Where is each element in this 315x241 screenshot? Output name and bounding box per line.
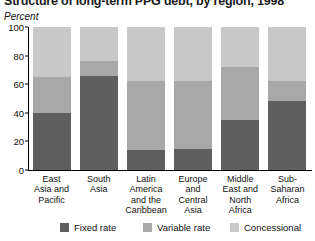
bar-segment[interactable] [174, 149, 212, 170]
legend-swatch-icon [230, 223, 239, 232]
y-axis-tick-mark [25, 170, 28, 171]
legend-item[interactable]: Concessional [230, 222, 301, 233]
category-label-line: Sub- [264, 174, 311, 184]
bar-segment[interactable] [80, 61, 118, 75]
x-axis-category-label: EuropeandCentralAsia [170, 174, 217, 216]
bar-segment[interactable] [221, 67, 259, 120]
category-label-line: North [217, 195, 264, 205]
bar-segment[interactable] [80, 27, 118, 61]
category-label-line: Pacific [28, 195, 75, 205]
y-axis-unit-label: Percent [4, 11, 38, 22]
plot-area: 020406080100 [28, 27, 311, 170]
bar-segment[interactable] [33, 113, 71, 170]
bar-stack[interactable] [221, 27, 259, 170]
y-axis-tick-label: 20 [13, 136, 24, 147]
x-axis-category-label: EastAsia andPacific [28, 174, 75, 205]
x-axis-category-label: SouthAsia [75, 174, 122, 195]
y-axis-tick-mark [25, 141, 28, 142]
bar-stack[interactable] [268, 27, 306, 170]
x-axis-category-label: LatinAmericaand theCaribbean [122, 174, 169, 216]
category-label-line: Asia [75, 184, 122, 194]
category-label-line: Europe [170, 174, 217, 184]
x-axis-category-label: Sub-SaharanAfrica [264, 174, 311, 205]
category-label-line: Saharan [264, 184, 311, 194]
y-axis-tick-label: 40 [13, 107, 24, 118]
bar-segment[interactable] [268, 81, 306, 101]
bar-segment[interactable] [174, 27, 212, 81]
category-label-line: Africa [217, 205, 264, 215]
bar-segment[interactable] [221, 120, 259, 170]
category-label-line: Africa [264, 195, 311, 205]
x-axis-category-label: MiddleEast andNorthAfrica [217, 174, 264, 216]
category-label-line: and the [122, 195, 169, 205]
bar-stack[interactable] [127, 27, 165, 170]
legend-label: Variable rate [157, 222, 210, 233]
y-axis-tick-mark [25, 112, 28, 113]
category-label-line: Asia [170, 205, 217, 215]
y-axis-tick-mark [25, 55, 28, 56]
y-axis-tick-label: 60 [13, 79, 24, 90]
bar-segment[interactable] [174, 81, 212, 148]
category-label-line: and [170, 184, 217, 194]
bar-segment[interactable] [268, 27, 306, 81]
bar-segment[interactable] [221, 27, 259, 67]
category-label-line: America [122, 184, 169, 194]
bar-segment[interactable] [33, 77, 71, 113]
y-axis-tick-label: 80 [13, 50, 24, 61]
bar-segment[interactable] [33, 27, 71, 77]
category-label-line: East and [217, 184, 264, 194]
category-label-line: East [28, 174, 75, 184]
bar-stack[interactable] [174, 27, 212, 170]
bar-stack[interactable] [33, 27, 71, 170]
bar-segment[interactable] [127, 27, 165, 81]
legend-swatch-icon [143, 223, 152, 232]
x-axis-line [28, 170, 312, 171]
legend-label: Concessional [244, 222, 301, 233]
category-label-line: Central [170, 195, 217, 205]
category-label-line: Latin [122, 174, 169, 184]
legend-item[interactable]: Variable rate [143, 222, 210, 233]
category-label-line: South [75, 174, 122, 184]
y-axis-tick-label: 100 [8, 22, 24, 33]
chart-legend: Fixed rateVariable rateConcessional [0, 222, 315, 236]
chart-title: Structure of long-term PPG debt, by regi… [4, 0, 315, 8]
bar-segment[interactable] [268, 101, 306, 170]
bar-segment[interactable] [127, 150, 165, 170]
category-label-line: Middle [217, 174, 264, 184]
y-axis-tick-mark [25, 27, 28, 28]
bar-segment[interactable] [127, 81, 165, 150]
bar-stack[interactable] [80, 27, 118, 170]
category-label-line: Caribbean [122, 205, 169, 215]
legend-item[interactable]: Fixed rate [60, 222, 116, 233]
category-label-line: Asia and [28, 184, 75, 194]
bar-segment[interactable] [80, 76, 118, 170]
legend-label: Fixed rate [74, 222, 116, 233]
y-axis-tick-label: 0 [19, 165, 24, 176]
y-axis-tick-mark [25, 84, 28, 85]
legend-swatch-icon [60, 223, 69, 232]
